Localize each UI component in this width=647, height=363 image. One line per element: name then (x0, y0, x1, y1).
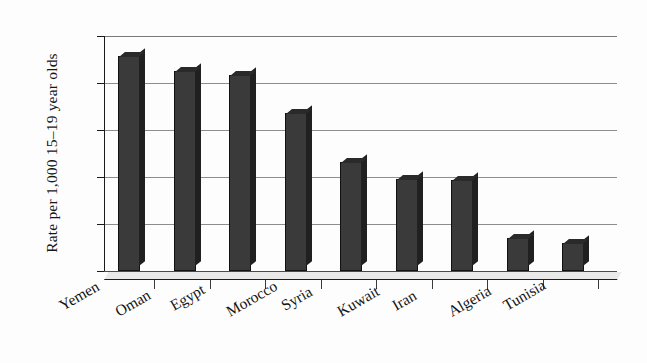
x-label-algeria: Algeria (445, 282, 494, 321)
x-label-yemen: Yemen (56, 277, 102, 314)
x-tick-8 (598, 280, 599, 289)
x-tick-1 (210, 280, 211, 289)
y-axis-line (104, 36, 105, 271)
bar-side-face (139, 48, 145, 266)
bar-morocco (285, 113, 307, 271)
bar-egypt (229, 75, 251, 271)
x-tick-0 (154, 280, 155, 289)
bar-tunisia (562, 243, 584, 271)
y-tick-10 (97, 224, 105, 225)
bar-side-face (250, 68, 256, 266)
bar-side-face (361, 154, 367, 266)
x-label-oman: Oman (112, 286, 154, 321)
y-tick-40 (97, 83, 105, 84)
x-label-egypt: Egypt (167, 280, 208, 314)
y-axis-title: Rate per 1,000 15–19 year olds (43, 23, 61, 283)
bar-kuwait (396, 179, 418, 271)
bar-chart-figure: Rate per 1,000 15–19 year olds 010203040… (0, 0, 647, 363)
y-tick-20 (97, 177, 105, 178)
x-label-syria: Syria (278, 283, 315, 315)
x-tick-3 (321, 280, 322, 289)
bar-oman (174, 71, 196, 271)
bar-syria (340, 162, 362, 271)
bar-side-face (195, 63, 201, 266)
x-label-kuwait: Kuwait (334, 282, 383, 320)
plot-area: 01020304050 (104, 36, 617, 271)
y-tick-30 (97, 130, 105, 131)
bar-yemen (118, 56, 140, 271)
baseline-floor (104, 272, 622, 280)
x-label-morocco: Morocco (223, 277, 280, 321)
bar-side-face (472, 172, 478, 266)
gridline-50 (104, 36, 617, 37)
bar-iran (451, 180, 473, 271)
bar-side-face (306, 105, 312, 266)
x-label-iran: Iran (389, 287, 420, 315)
y-tick-50 (97, 36, 105, 37)
bar-algeria (507, 238, 529, 271)
bar-side-face (417, 172, 423, 266)
x-label-tunisia: Tunisia (500, 276, 549, 315)
x-tick-5 (432, 280, 433, 289)
